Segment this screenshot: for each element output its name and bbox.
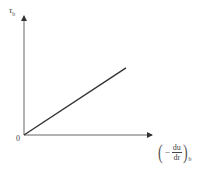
x-axis-label: ( − du dr ) b xyxy=(157,142,191,162)
minus-sign: − xyxy=(165,147,170,157)
right-paren: ) xyxy=(183,142,188,162)
y-label-subscript: b xyxy=(12,11,15,17)
derivative-fraction: du dr xyxy=(172,143,182,162)
fraction-numerator: du xyxy=(172,143,182,153)
y-axis-label: τb xyxy=(9,5,15,17)
origin-label: 0 xyxy=(16,134,20,143)
fraction-denominator: dr xyxy=(173,153,180,162)
left-paren: ( xyxy=(158,142,163,162)
data-line xyxy=(24,68,126,135)
x-label-subscript: b xyxy=(188,156,191,162)
